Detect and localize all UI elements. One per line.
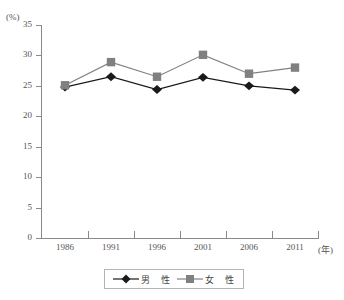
- y-tick-label: 0: [0, 233, 32, 242]
- diamond-marker-icon: [113, 273, 139, 285]
- x-tick-mark: [88, 231, 89, 239]
- y-tick-label: 10: [0, 172, 32, 181]
- legend-label-male: 男 性: [141, 273, 171, 286]
- y-tick-mark: [36, 86, 42, 87]
- x-tick-mark: [318, 231, 319, 239]
- data-point-diamond: [152, 85, 162, 94]
- x-tick-label: 1991: [88, 243, 134, 252]
- x-tick-label: 1986: [42, 243, 88, 252]
- data-point-diamond: [198, 73, 208, 82]
- x-tick-mark: [134, 231, 135, 239]
- data-point-diamond: [290, 86, 300, 95]
- y-tick-mark: [36, 147, 42, 148]
- x-axis-unit-label: (年): [318, 243, 333, 256]
- data-point-square: [153, 73, 161, 81]
- y-tick-label: 30: [0, 50, 32, 59]
- data-point-square: [245, 69, 253, 77]
- x-tick-label: 2006: [226, 243, 272, 252]
- x-tick-label: 2011: [272, 243, 318, 252]
- data-point-diamond: [106, 72, 116, 81]
- data-point-square: [61, 81, 69, 89]
- series-line-male: [65, 77, 295, 90]
- legend-item-male: 男 性: [113, 273, 171, 286]
- legend-item-female: 女 性: [177, 273, 235, 286]
- square-marker-icon: [177, 273, 203, 285]
- x-tick-label: 2001: [180, 243, 226, 252]
- data-point-square: [107, 58, 115, 66]
- legend-label-female: 女 性: [205, 273, 235, 286]
- data-point-square: [291, 63, 299, 71]
- y-tick-label: 5: [0, 203, 32, 212]
- series-plot-layer: [0, 0, 344, 300]
- y-tick-label: 20: [0, 111, 32, 120]
- x-tick-mark: [272, 231, 273, 239]
- y-tick-mark: [36, 208, 42, 209]
- y-tick-mark: [36, 238, 42, 239]
- data-point-square: [199, 51, 207, 59]
- data-point-diamond: [60, 83, 70, 92]
- y-tick-mark: [36, 116, 42, 117]
- chart-legend: 男 性 女 性: [104, 269, 244, 289]
- x-tick-mark: [180, 231, 181, 239]
- y-tick-mark: [36, 177, 42, 178]
- x-tick-mark: [226, 231, 227, 239]
- y-tick-label: 15: [0, 142, 32, 151]
- data-point-diamond: [244, 81, 254, 90]
- y-tick-mark: [36, 25, 42, 26]
- y-tick-mark: [36, 55, 42, 56]
- line-chart-figure: (%) (年) 35302520151050 19861991199620012…: [0, 0, 344, 300]
- x-tick-label: 1996: [134, 243, 180, 252]
- y-tick-label: 35: [0, 20, 32, 29]
- y-tick-label: 25: [0, 81, 32, 90]
- series-line-female: [65, 55, 295, 85]
